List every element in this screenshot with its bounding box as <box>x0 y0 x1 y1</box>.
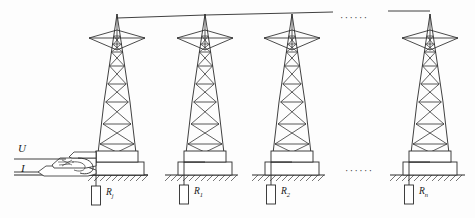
ellipsis-ground-icon: ······ <box>345 166 373 176</box>
tower-1-lattice <box>89 14 145 162</box>
tower-3-lattice <box>264 14 320 162</box>
resistor-label-4-sub: n <box>425 191 428 198</box>
tower-3-grounding-resistor <box>267 185 276 204</box>
figure-canvas: U I Rj R1 R2 Rn ······ ······ <box>0 0 475 218</box>
ellipsis-top-icon: ······ <box>340 13 368 23</box>
resistor-label-4: Rn <box>419 187 428 198</box>
tower-3-foundation <box>265 151 319 175</box>
voltage-label: U <box>18 143 26 154</box>
overhead-ground-wire <box>117 11 430 18</box>
resistor-label-2-sub: 1 <box>200 191 203 198</box>
tower-2-foundation <box>178 151 232 175</box>
earth-hatching <box>88 175 462 181</box>
resistor-label-3: R2 <box>281 187 290 198</box>
tower-4-lattice <box>402 14 458 162</box>
transmission-tower-diagram <box>0 0 475 218</box>
tower-2-grounding-resistor <box>180 185 189 204</box>
resistor-label-1: Rj <box>106 188 114 199</box>
current-label: I <box>21 163 25 174</box>
tower-4-foundation <box>403 151 457 175</box>
tower-1-foundation <box>90 151 144 175</box>
clamp-meter-icon <box>14 152 96 176</box>
tower-4-grounding-resistor <box>405 185 414 204</box>
resistor-label-1-sub: j <box>112 192 114 199</box>
resistor-label-2: R1 <box>194 187 203 198</box>
tower-2-lattice <box>177 14 233 162</box>
tower-1-grounding-resistor <box>92 186 101 205</box>
resistor-label-3-sub: 2 <box>287 191 290 198</box>
